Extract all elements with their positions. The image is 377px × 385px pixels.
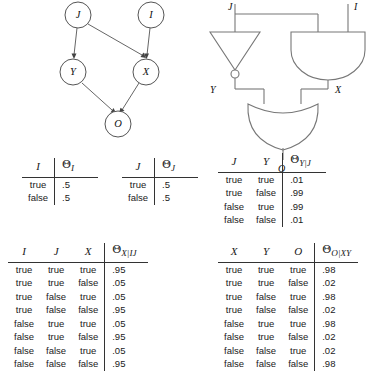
cell-value: true: [250, 200, 283, 214]
cell-value: false: [218, 317, 250, 331]
cell-param: .98: [315, 317, 359, 331]
cell-param: .05: [105, 317, 149, 331]
dag-svg: J I Y X O: [0, 0, 190, 150]
circuit-label-i: I: [353, 1, 358, 12]
theta-subscript: X|IJ: [121, 248, 136, 258]
cpt-table-y-head: J Y ΘY|J: [218, 153, 326, 172]
col-header-y: Y: [250, 243, 282, 262]
cell-value: false: [250, 357, 282, 371]
and-gate[interactable]: [291, 32, 365, 80]
table-row: false false true .05: [8, 344, 148, 358]
cell-value: true: [40, 262, 72, 276]
theta-symbol: Θ: [62, 158, 71, 171]
cell-value: true: [72, 344, 105, 358]
not-gate[interactable]: [210, 32, 260, 78]
table-row: false false .01: [218, 213, 326, 227]
table-row: true false .99: [218, 186, 326, 200]
cell-value: false: [282, 330, 315, 344]
cell-value: false: [218, 200, 250, 214]
cell-value: false: [8, 344, 40, 358]
theta-subscript: Y|J: [299, 158, 311, 168]
table-row: false true true .98: [218, 317, 358, 331]
cpt-table-x-body: true true true .95 true true false .05 t…: [8, 262, 148, 371]
cell-value: true: [250, 262, 282, 276]
table-row: true true false .05: [8, 276, 148, 290]
dag-node-o[interactable]: O: [105, 111, 131, 137]
cell-value: false: [218, 330, 250, 344]
theta-symbol: Θ: [322, 243, 331, 256]
dag-nodes: J I Y X O: [60, 2, 164, 137]
cell-value: true: [122, 177, 155, 191]
col-header-y: Y: [250, 153, 283, 172]
not-gate-bubble-icon: [231, 70, 239, 78]
cell-param: .05: [105, 344, 149, 358]
theta-subscript: O|XY: [331, 248, 351, 258]
table-row: false true .99: [218, 200, 326, 214]
cell-value: false: [40, 303, 72, 317]
table-header-row: I J X ΘX|IJ: [8, 243, 148, 262]
cell-value: false: [72, 357, 105, 371]
theta-symbol: Θ: [112, 243, 121, 256]
cell-value: true: [40, 317, 72, 331]
cell-value: false: [250, 186, 283, 200]
cpt-table-y-body: true true .01 true false .99 false true …: [218, 172, 326, 227]
circuit-label-x: X: [334, 84, 342, 95]
dag-node-i[interactable]: I: [138, 2, 164, 28]
cell-value: true: [282, 344, 315, 358]
and-gate-body: [291, 32, 365, 80]
cell-value: true: [40, 330, 72, 344]
cell-value: true: [218, 186, 250, 200]
cell-value: false: [282, 276, 315, 290]
table-row: true false true .98: [218, 290, 358, 304]
edge-i-to-x: [147, 28, 150, 55]
cpt-table-i-head: I ΘI: [22, 158, 98, 177]
cell-param: .98: [315, 262, 359, 276]
table-row: true .5: [22, 177, 98, 191]
dag-node-j[interactable]: J: [65, 2, 91, 28]
table-row: false false true .02: [218, 344, 358, 358]
cpt-table-i-body: true .5 false .5: [22, 177, 98, 205]
cell-param: .95: [105, 357, 149, 371]
circuit-label-y: Y: [210, 84, 217, 95]
cell-value: true: [282, 262, 315, 276]
col-header-j: J: [40, 243, 72, 262]
cpt-table-i: I ΘI true .5 false .5: [22, 158, 98, 205]
cell-value: true: [250, 317, 282, 331]
cell-param: .5: [55, 191, 99, 205]
cpt-table-x-given-ij: I J X ΘX|IJ true true true .95 true true…: [8, 243, 148, 371]
table-row: true true true .95: [8, 262, 148, 276]
edge-j-to-x: [88, 24, 142, 55]
cell-value: true: [218, 172, 250, 186]
table-header-row: J ΘJ: [122, 158, 198, 177]
cell-value: false: [250, 290, 282, 304]
cell-param: .02: [315, 344, 359, 358]
cpt-table-x-head: I J X ΘX|IJ: [8, 243, 148, 262]
cell-value: true: [218, 276, 250, 290]
cell-value: false: [72, 276, 105, 290]
col-header-j: J: [122, 158, 155, 177]
dag-node-x[interactable]: X: [133, 59, 159, 85]
cell-value: false: [40, 344, 72, 358]
cell-param: .5: [55, 177, 99, 191]
cpt-table-o-body: true true true .98 true true false .02 t…: [218, 262, 358, 371]
table-row: false false false .95: [8, 357, 148, 371]
cell-value: true: [72, 317, 105, 331]
figure-root: J I Y X O: [0, 0, 377, 385]
cell-param: .02: [315, 276, 359, 290]
cell-param: .01: [283, 172, 327, 186]
table-header-row: I ΘI: [22, 158, 98, 177]
table-row: true true true .98: [218, 262, 358, 276]
edge-y-to-o: [82, 83, 112, 110]
cell-value: true: [8, 303, 40, 317]
circuit-label-j: J: [228, 1, 233, 12]
col-header-theta-y-given-j: ΘY|J: [283, 153, 327, 172]
theta-symbol: Θ: [162, 158, 171, 171]
or-gate[interactable]: [248, 104, 318, 150]
cell-value: false: [218, 357, 250, 371]
table-row: true false false .02: [218, 303, 358, 317]
cpt-table-y-given-j: J Y ΘY|J true true .01 true false .99 fa…: [218, 153, 326, 227]
cell-value: false: [8, 317, 40, 331]
dag-node-y[interactable]: Y: [60, 59, 86, 85]
circuit-wires-mid: [235, 78, 328, 104]
cell-param: .95: [105, 303, 149, 317]
